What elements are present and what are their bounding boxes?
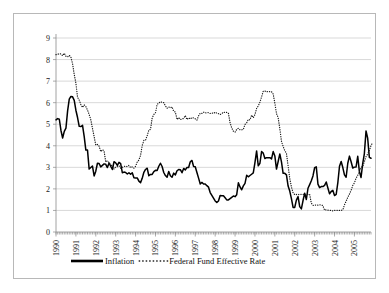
x-tick-label: 1994	[132, 240, 141, 256]
legend-label: Federal Fund Effective Rate	[169, 256, 265, 266]
x-tick-label: 2004	[331, 240, 340, 256]
x-tick-label: 2001	[271, 240, 280, 256]
x-axis-tickmarks	[56, 232, 371, 237]
x-tick-label: 1995	[151, 240, 160, 256]
y-tick-label: 4	[46, 142, 50, 151]
x-tick-label: 1997	[191, 240, 200, 256]
line-chart: 0123456789 19901991199219931994199519961…	[14, 14, 377, 280]
x-tick-label: 2003	[311, 240, 320, 256]
y-axis-tick-labels: 0123456789	[46, 34, 56, 237]
y-tick-label: 6	[46, 99, 50, 108]
x-axis-tick-labels: 1990199119921993199419951996199719981999…	[52, 240, 359, 256]
series-line-inflation	[56, 96, 371, 209]
y-tick-label: 2	[46, 185, 50, 194]
x-tick-label: 1999	[231, 240, 240, 256]
x-tick-label: 1998	[211, 240, 220, 256]
y-tick-label: 8	[46, 56, 50, 65]
x-tick-label: 1990	[52, 240, 61, 256]
axes	[56, 34, 371, 232]
legend-label: Inflation	[105, 256, 135, 266]
data-series-layer	[56, 53, 373, 211]
x-tick-label: 1996	[171, 240, 180, 256]
x-tick-label: 2005	[350, 240, 359, 256]
chart-figure: 0123456789 19901991199219931994199519961…	[13, 13, 376, 279]
gridlines	[56, 38, 371, 210]
y-tick-label: 9	[46, 34, 50, 43]
x-tick-label: 1992	[92, 240, 101, 256]
x-tick-label: 1991	[72, 240, 81, 256]
y-tick-label: 5	[46, 120, 50, 129]
series-line-federal-fund-effective-rate	[56, 53, 373, 211]
x-tick-label: 2002	[291, 240, 300, 256]
y-tick-label: 3	[46, 163, 50, 172]
chart-legend: InflationFederal Fund Effective Rate	[71, 256, 265, 266]
x-tick-label: 1993	[112, 240, 121, 256]
y-tick-label: 1	[46, 206, 50, 215]
y-tick-label: 7	[46, 77, 50, 86]
y-tick-label: 0	[46, 228, 50, 237]
x-tick-label: 2000	[251, 240, 260, 256]
